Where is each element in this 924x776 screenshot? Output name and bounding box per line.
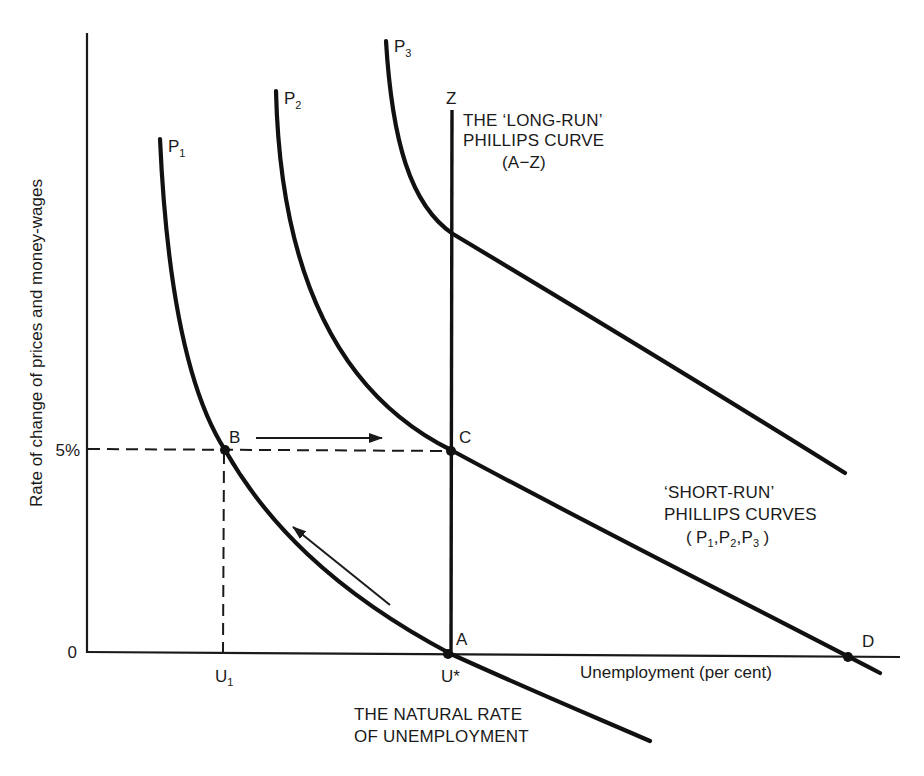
five-percent-guide-line [88, 449, 451, 451]
y-axis-label: Rate of change of prices and money-wages [27, 179, 46, 507]
svg-text:PHILLIPS CURVE: PHILLIPS CURVE [463, 131, 604, 150]
point-d-marker [843, 652, 853, 662]
svg-text:OF UNEMPLOYMENT: OF UNEMPLOYMENT [354, 727, 529, 746]
point-a-marker [443, 649, 453, 659]
y-tick-zero: 0 [68, 643, 77, 662]
svg-text:‘SHORT-RUN’: ‘SHORT-RUN’ [664, 483, 775, 502]
x-tick-ustar: U* [441, 667, 460, 686]
curve-p1-label: P1 [168, 137, 185, 159]
x-axis-label: Unemployment (per cent) [580, 663, 772, 682]
x-axis [86, 652, 900, 657]
point-d-label: D [862, 632, 874, 651]
svg-text:PHILLIPS CURVES: PHILLIPS CURVES [664, 505, 817, 524]
point-c-label: C [459, 428, 471, 447]
curve-p2-label: P2 [284, 89, 301, 111]
svg-text:THE ‘LONG-RUN’: THE ‘LONG-RUN’ [463, 111, 603, 130]
svg-text:(P1,P2,P3): (P1,P2,P3) [686, 528, 769, 549]
x-tick-u1: U1 [215, 667, 233, 688]
arrow-a-to-b [293, 527, 390, 605]
y-tick-5-percent: 5% [55, 441, 80, 460]
svg-text:(A−Z): (A−Z) [502, 153, 546, 172]
short-run-annotation: ‘SHORT-RUN’ PHILLIPS CURVES (P1,P2,P3) [664, 483, 817, 549]
curve-z-label: Z [446, 89, 456, 108]
curve-p3-label: P3 [394, 37, 411, 59]
u1-guide-line [223, 452, 224, 652]
point-b-label: B [229, 428, 240, 447]
long-run-annotation: THE ‘LONG-RUN’ PHILLIPS CURVE (A−Z) [463, 111, 604, 172]
phillips-curve-diagram: Rate of change of prices and money-wages… [0, 0, 924, 776]
point-a-label: A [456, 630, 468, 649]
point-c-marker [446, 446, 456, 456]
long-run-phillips-curve [451, 110, 452, 654]
svg-text:THE NATURAL RATE: THE NATURAL RATE [354, 705, 522, 724]
natural-rate-annotation: THE NATURAL RATE OF UNEMPLOYMENT [354, 705, 529, 746]
